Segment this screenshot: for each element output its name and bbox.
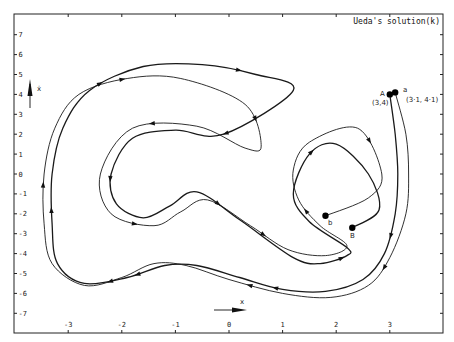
axis-ticks [14, 14, 443, 333]
direction-arrow-icon [49, 207, 54, 213]
y-tick-label: 6 [19, 51, 23, 59]
direction-arrow-icon [134, 272, 141, 278]
direction-arrow-icon [388, 233, 394, 240]
label-A: A [380, 90, 385, 98]
y-tick-label: -6 [19, 290, 27, 298]
trajectories [43, 63, 409, 297]
label-B: B [350, 232, 355, 240]
y-tick-label: 1 [19, 151, 23, 159]
x-tick-label: 3 [388, 321, 392, 329]
x-tick-label: 1 [280, 321, 284, 329]
y-tick-label: 4 [19, 91, 23, 99]
chart-title: Ueda's solution(k) [353, 17, 440, 26]
arrow-up-icon [28, 79, 33, 96]
y-tick-label: -4 [19, 250, 27, 258]
x-axis-direction-arrow: x [214, 298, 247, 313]
label-a: a [403, 86, 407, 94]
axis-tick-labels: -3-2-1012376543210-1-2-3-4-5-6-7 [19, 31, 392, 329]
y-axis-label: ẋ [37, 85, 41, 93]
y-tick-label: 5 [19, 71, 23, 79]
direction-arrow-icon [246, 282, 253, 288]
trajectory-a [43, 76, 409, 298]
direction-arrow-icon [252, 115, 258, 122]
y-tick-label: -1 [19, 190, 27, 198]
start-point-a [392, 89, 398, 95]
y-tick-label: -3 [19, 230, 27, 238]
y-tick-label: 7 [19, 31, 23, 39]
x-tick-label: 0 [227, 321, 231, 329]
direction-arrow-icon [149, 121, 155, 126]
y-tick-label: 3 [19, 111, 23, 119]
direction-arrow-icon [41, 181, 46, 187]
arrow-right-icon [232, 308, 247, 313]
plot-frame [14, 14, 443, 333]
direction-arrow-icon [338, 255, 345, 261]
label-b: b [328, 219, 333, 227]
direction-arrow-icon [366, 137, 373, 144]
trajectory-A [51, 63, 398, 292]
x-axis-label: x [240, 298, 244, 306]
phase-portrait-chart: -3-2-1012376543210-1-2-3-4-5-6-7 Ueda's … [0, 0, 454, 342]
direction-arrow-icon [381, 264, 388, 271]
x-tick-label: 2 [334, 321, 338, 329]
direction-arrow-icon [108, 176, 113, 182]
label-a-coords: (3·1, 4·1) [406, 96, 438, 104]
y-tick-label: 2 [19, 131, 23, 139]
y-tick-label: -7 [19, 310, 27, 318]
x-tick-label: -3 [64, 321, 72, 329]
y-tick-label: -5 [19, 270, 27, 278]
y-tick-label: -2 [19, 210, 27, 218]
label-A-coords: (3,4) [372, 99, 389, 107]
y-axis-direction-arrow: ẋ [28, 79, 42, 108]
y-tick-label: 0 [19, 171, 23, 179]
x-tick-label: -2 [118, 321, 126, 329]
x-tick-label: -1 [171, 321, 179, 329]
direction-arrow-icon [222, 130, 229, 136]
end-point-B [349, 225, 355, 231]
